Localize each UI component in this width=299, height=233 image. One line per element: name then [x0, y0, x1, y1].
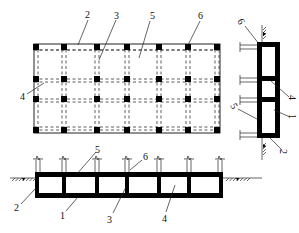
break-mark — [218, 156, 222, 160]
leader-cross-6 — [245, 26, 259, 44]
plan-column — [156, 76, 162, 82]
wall — [125, 172, 129, 198]
label-long-6: 6 — [143, 151, 148, 162]
plan-column — [94, 96, 100, 102]
ground-hatch — [240, 178, 243, 181]
plan-column — [61, 44, 67, 50]
wall — [62, 172, 66, 198]
plan-column — [33, 76, 39, 82]
ground-hatch — [247, 178, 250, 181]
leader-long-6 — [130, 160, 142, 170]
plan-column — [124, 96, 130, 102]
label-long-5: 5 — [95, 144, 100, 155]
ground-hatch — [226, 178, 229, 181]
longitudinal-section — [10, 156, 262, 198]
ground-hatch — [263, 27, 266, 30]
ground-hatch — [19, 178, 22, 181]
box-foundation-diagram: 2 3 5 6 4 5 6 2 1 3 4 6 4 5 1 — [0, 0, 299, 233]
label-cross-4: 4 — [287, 95, 298, 100]
plan-column — [94, 76, 100, 82]
leader-6 — [188, 21, 200, 45]
plan-column — [185, 76, 191, 82]
wall — [35, 172, 39, 198]
label-6: 6 — [198, 10, 203, 21]
slab — [257, 42, 280, 47]
label-long-1: 1 — [60, 210, 65, 221]
ground-hatch — [263, 149, 266, 152]
break-mark — [36, 156, 40, 160]
plan-column — [61, 127, 67, 133]
wall — [157, 172, 161, 198]
plan-column — [61, 76, 67, 82]
label-cross-1: 1 — [287, 114, 298, 119]
leader-long-4 — [166, 185, 175, 212]
label-long-4: 4 — [162, 213, 167, 224]
ground-hatch — [230, 178, 233, 181]
outer-wall-left — [257, 42, 262, 138]
cross-section — [240, 25, 280, 160]
ground-hatch — [12, 178, 15, 181]
leader-4 — [27, 83, 44, 94]
ground-hatch — [30, 178, 33, 181]
plan-column — [214, 76, 220, 82]
label-4: 4 — [20, 91, 25, 102]
ground-hatch — [26, 178, 29, 181]
label-cross-6: 6 — [235, 16, 247, 26]
plan-labels: 2 3 5 6 4 — [20, 9, 203, 102]
break-mark — [157, 156, 161, 160]
leader-3 — [99, 20, 116, 60]
label-3: 3 — [114, 10, 119, 21]
water-level-mark — [22, 178, 25, 181]
leader-long-5 — [76, 152, 96, 175]
plan-view — [33, 44, 220, 133]
plan-column — [94, 127, 100, 133]
water-level-mark — [236, 178, 239, 181]
plan-column — [156, 96, 162, 102]
plan-column — [185, 96, 191, 102]
plan-column — [33, 96, 39, 102]
plan-column — [124, 76, 130, 82]
label-2: 2 — [85, 9, 90, 20]
slab — [257, 97, 280, 102]
ground-hatch — [233, 178, 236, 181]
plan-column — [214, 44, 220, 50]
ground-hatch — [263, 36, 266, 39]
outer-wall-right — [275, 42, 280, 138]
plan-column — [124, 127, 130, 133]
wall — [219, 172, 223, 198]
leader-2 — [78, 20, 88, 45]
ground-hatch — [263, 152, 266, 155]
ground-hatch — [16, 178, 19, 181]
water-level-mark — [263, 32, 266, 36]
break-mark — [62, 156, 66, 160]
plan-column — [124, 44, 130, 50]
leader-cross-5 — [238, 109, 257, 119]
wall — [95, 172, 99, 198]
plan-column — [94, 44, 100, 50]
plan-column — [33, 44, 39, 50]
leader-long-3 — [113, 187, 126, 213]
leader-long-1 — [66, 197, 78, 211]
plan-column — [61, 96, 67, 102]
label-5: 5 — [150, 10, 155, 21]
plan-column — [185, 127, 191, 133]
leader-5 — [139, 21, 150, 58]
break-mark — [187, 156, 191, 160]
plan-column — [33, 127, 39, 133]
bottom-slab — [257, 133, 280, 138]
plan-column — [156, 44, 162, 50]
ground-hatch — [244, 178, 247, 181]
slab — [257, 76, 280, 81]
label-long-2: 2 — [14, 202, 19, 213]
plan-column — [214, 127, 220, 133]
break-mark — [125, 156, 129, 160]
plan-column — [156, 127, 162, 133]
leader-long-2 — [21, 188, 36, 204]
wall — [187, 172, 191, 198]
label-long-3: 3 — [107, 214, 112, 225]
break-mark — [95, 156, 99, 160]
plan-column — [214, 96, 220, 102]
label-cross-2: 2 — [278, 149, 289, 154]
